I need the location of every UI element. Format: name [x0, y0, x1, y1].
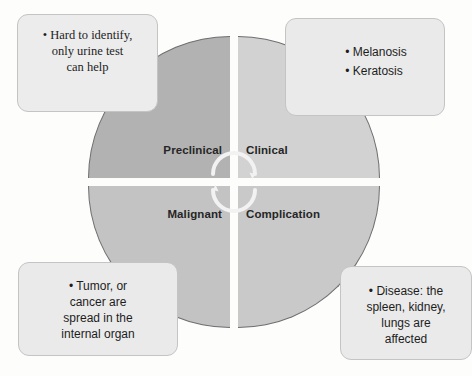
- callout-line: • Tumor, or: [61, 279, 134, 295]
- callout-line: • Disease: the: [366, 284, 445, 300]
- callout-preclinical-text: • Hard to identify, only urine test can …: [35, 27, 141, 75]
- callout-preclinical[interactable]: • Hard to identify, only urine test can …: [17, 14, 158, 112]
- callout-clinical-text: • Melanosis • Keratosis: [337, 43, 415, 80]
- callout-line: spleen, kidney,: [366, 300, 445, 316]
- quadrant-horizontal-divider: [86, 181, 382, 184]
- callout-line: internal organ: [61, 327, 134, 343]
- callout-line: • Hard to identify,: [43, 27, 133, 43]
- callout-line: can help: [43, 59, 133, 75]
- quadrant-label-preclinical: Preclinical: [163, 144, 222, 156]
- callout-complication-text: • Disease: the spleen, kidney, lungs are…: [358, 284, 453, 347]
- callout-line: only urine test: [43, 43, 133, 59]
- callout-complication[interactable]: • Disease: the spleen, kidney, lungs are…: [340, 266, 472, 360]
- callout-line: • Keratosis: [345, 62, 407, 81]
- callout-malignant-text: • Tumor, or cancer are spread in the int…: [53, 279, 142, 342]
- callout-line: cancer are: [61, 295, 134, 311]
- callout-clinical[interactable]: • Melanosis • Keratosis: [285, 18, 445, 116]
- callout-line: • Melanosis: [345, 43, 407, 62]
- quadrant-label-complication: Complication: [246, 208, 320, 220]
- callout-line: affected: [366, 332, 445, 348]
- quadrant-label-clinical: Clinical: [246, 144, 288, 156]
- callout-line: spread in the: [61, 311, 134, 327]
- callout-malignant[interactable]: • Tumor, or cancer are spread in the int…: [18, 262, 178, 356]
- quadrant-label-malignant: Malignant: [167, 208, 222, 220]
- callout-line: lungs are: [366, 316, 445, 332]
